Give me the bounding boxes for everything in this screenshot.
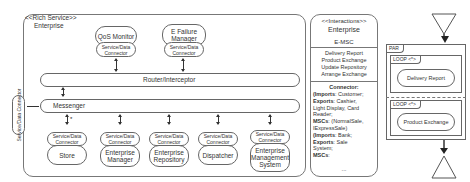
end-triangle-icon — [430, 140, 460, 182]
loop-label-2: LOOP <*> — [391, 101, 421, 109]
interactions-stereotype: <<Interactions>> — [310, 18, 378, 25]
connector-title: Connector: — [310, 84, 378, 91]
arrow-router-messenger — [63, 88, 64, 96]
arrow-store — [67, 115, 68, 124]
multiplicity-star: * — [70, 116, 72, 122]
connector-line: Exports: Cashier, — [313, 98, 377, 105]
router-label: Router/Interceptor — [143, 74, 195, 86]
connector-enterprise-repository[interactable]: Service/Data Connector — [149, 132, 189, 146]
loop-frame-2: LOOP <*> Product Exchange — [390, 100, 462, 136]
arrow-enterprise-manager — [120, 115, 121, 124]
messenger-bar[interactable]: Messenger — [40, 99, 300, 113]
connector-line: MSCs: (NormalSale, — [313, 118, 377, 125]
side-connector[interactable]: Service/Data Connector — [12, 95, 25, 135]
service-enterprise-repository[interactable]: Enterprise Repository — [149, 145, 189, 167]
service-ems[interactable]: Enterprise Management System — [250, 143, 290, 172]
down-arrow-icon — [440, 36, 450, 44]
rich-service-stereotype: <<Rich Service>> — [25, 14, 77, 21]
messenger-label: Messenger — [53, 100, 85, 112]
interactions-list: Delivery Report Product Exchange Update … — [310, 50, 378, 78]
arrow-qos-router — [116, 59, 117, 71]
interaction-item[interactable]: Product Exchange — [310, 57, 378, 64]
connector-line: System; — [313, 145, 377, 152]
arrow-ems — [270, 115, 271, 124]
connector-line: (Imports: Bank; — [313, 132, 377, 139]
side-connector-label: Service/Data Connector — [16, 88, 22, 141]
interaction-item[interactable]: Update Repository — [310, 64, 378, 71]
connector-store[interactable]: Service/Data Connector — [47, 132, 87, 146]
interactions-msc: E-MSC — [310, 39, 378, 46]
loop-label-1: LOOP <*> — [391, 56, 421, 64]
connector-dispatcher[interactable]: Service/Data Connector — [198, 132, 238, 146]
connector-e-failure-manager[interactable]: Service/Data Connector — [164, 42, 204, 57]
connector-qos-monitor[interactable]: Service/Data Connector — [96, 42, 136, 57]
connector-line: MSCs: — [313, 152, 377, 159]
service-enterprise-manager[interactable]: Enterprise Manager — [100, 145, 140, 167]
connector-details: (Imports: Customer; Exports: Cashier, Li… — [313, 91, 377, 159]
connector-line: Exports: Sale — [313, 139, 377, 146]
service-store[interactable]: Store — [47, 145, 87, 165]
interaction-item[interactable]: Arrange Exchange — [310, 71, 378, 78]
arrow-enterprise-repository — [169, 115, 170, 124]
connector-enterprise-manager[interactable]: Service/Data Connector — [100, 132, 140, 146]
connector-line: IExpressSale) — [313, 125, 377, 132]
loop-frame-1: LOOP <*> Delivery Report — [390, 55, 462, 93]
connector-line: Light Display, Card — [313, 105, 377, 112]
interactions-name: Enterprise — [310, 26, 378, 33]
rich-service-name: Enterprise — [34, 22, 64, 29]
connector-ems[interactable]: Service/Data Connector — [250, 130, 290, 144]
arrow-side-messenger — [27, 106, 39, 107]
service-dispatcher[interactable]: Dispatcher — [198, 145, 238, 165]
connector-line: (Imports: Customer; — [313, 91, 377, 98]
arrow-dispatcher — [218, 115, 219, 124]
router-interceptor-bar[interactable]: Router/Interceptor — [40, 73, 300, 87]
msc-product-exchange[interactable]: Product Exchange — [397, 113, 455, 131]
interaction-item[interactable]: Delivery Report — [310, 50, 378, 57]
arrow-efm-router — [183, 59, 184, 71]
interactions-divider-1 — [310, 47, 378, 48]
par-divider — [386, 97, 466, 98]
connector-line: Reader; — [313, 111, 377, 118]
par-label: PAR — [387, 45, 404, 53]
msc-delivery-report[interactable]: Delivery Report — [397, 69, 455, 87]
interactions-divider-2 — [310, 81, 378, 82]
interactions-ellipsis: ... — [310, 166, 378, 173]
